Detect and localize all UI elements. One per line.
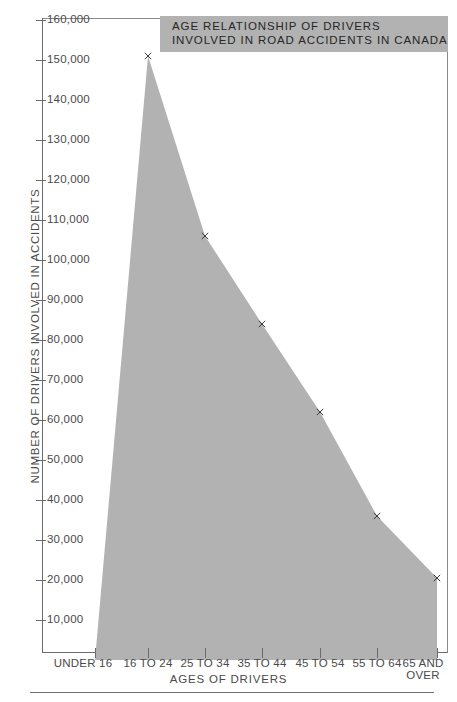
y-axis-tick-label: 50,000 (47, 453, 83, 465)
y-axis-tick-label: 150,000 (47, 53, 90, 65)
bottom-rule (30, 692, 434, 693)
y-axis-tick-label: 40,000 (47, 493, 83, 505)
y-axis-tick-label: 130,000 (47, 133, 90, 145)
y-axis-tick (36, 620, 46, 621)
y-axis-tick-label: 90,000 (47, 293, 83, 305)
chart-figure: 160,000150,000140,000130,000120,000110,0… (0, 0, 457, 702)
y-axis-tick-label: 160,000 (47, 13, 90, 25)
y-axis-tick-label: 120,000 (47, 173, 90, 185)
y-axis-tick-label: 80,000 (47, 333, 83, 345)
y-axis-tick-label: 30,000 (47, 533, 83, 545)
y-axis-tick-label: 140,000 (47, 93, 90, 105)
y-axis-tick-label: 70,000 (47, 373, 83, 385)
x-axis-title: AGES OF DRIVERS (0, 673, 457, 685)
y-axis-tick-label: 10,000 (47, 613, 83, 625)
y-axis-tick-label: 110,000 (47, 213, 89, 225)
y-axis-tick (36, 20, 46, 21)
y-axis-title: NUMBER OF DRIVERS INVOLVED IN ACCIDENTS (29, 56, 41, 616)
plot-area-frame (42, 18, 448, 653)
chart-title-line-1: AGE RELATIONSHIP OF DRIVERS (172, 19, 448, 33)
y-axis-tick-label: 100,000 (47, 253, 90, 265)
y-axis-tick-label: 20,000 (47, 573, 83, 585)
y-axis-tick-label: 60,000 (47, 413, 83, 425)
chart-title-line-2: INVOLVED IN ROAD ACCIDENTS IN CANADA (172, 33, 448, 47)
chart-title-box: AGE RELATIONSHIP OF DRIVERS INVOLVED IN … (160, 16, 448, 52)
